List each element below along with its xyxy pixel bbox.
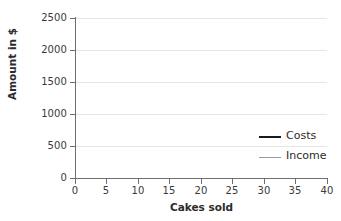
- y-ticklabel-1500: 1500: [27, 77, 67, 87]
- y-tick-500: [70, 146, 75, 147]
- x-tick-40: [327, 179, 328, 184]
- y-axis-title: Amount in $: [5, 4, 19, 124]
- y-ticklabel-2500-wrap: 2500: [22, 13, 67, 23]
- y-axis-line: [75, 17, 76, 179]
- x-ticklabel-40: 40: [312, 186, 341, 196]
- chart-legend: Costs Income: [259, 128, 341, 168]
- y-tick-1500: [70, 82, 75, 83]
- y-ticklabel-1000-wrap: 1000: [22, 109, 67, 119]
- gridline-2500: [75, 18, 327, 19]
- x-tick-20: [201, 179, 202, 184]
- x-ticklabel-30: 30: [249, 186, 279, 196]
- line-chart: 2500 2000 1500 1000 500 0 0 5 10 15 20 2…: [0, 0, 341, 221]
- y-ticklabel-500-wrap: 500: [22, 141, 67, 151]
- y-ticklabel-500: 500: [27, 141, 67, 151]
- legend-label-income: Income: [286, 149, 326, 163]
- legend-item-costs: Costs: [259, 128, 341, 148]
- gridline-1000: [75, 114, 327, 115]
- x-ticklabel-20: 20: [186, 186, 216, 196]
- x-tick-25: [232, 179, 233, 184]
- x-ticklabel-0: 0: [60, 186, 90, 196]
- x-axis-title: Cakes sold: [75, 201, 328, 213]
- x-tick-35: [295, 179, 296, 184]
- legend-swatch-income-icon: [259, 157, 281, 158]
- y-axis-title-wrap: Amount in $: [5, 4, 19, 124]
- y-ticklabel-1500-wrap: 1500: [22, 77, 67, 87]
- legend-swatch-costs-icon: [259, 136, 281, 138]
- y-ticklabel-1000: 1000: [27, 109, 67, 119]
- x-ticklabel-5: 5: [91, 186, 121, 196]
- x-tick-30: [264, 179, 265, 184]
- gridline-1500: [75, 82, 327, 83]
- y-tick-2000: [70, 50, 75, 51]
- y-tick-1000: [70, 114, 75, 115]
- gridline-2000: [75, 50, 327, 51]
- x-ticklabel-25: 25: [217, 186, 247, 196]
- x-tick-10: [138, 179, 139, 184]
- x-tick-15: [169, 179, 170, 184]
- y-ticklabel-2000: 2000: [27, 45, 67, 55]
- legend-label-costs: Costs: [286, 129, 316, 143]
- x-ticklabel-15: 15: [154, 186, 184, 196]
- y-tick-2500: [70, 18, 75, 19]
- x-ticklabel-10: 10: [123, 186, 153, 196]
- x-tick-0: [75, 179, 76, 184]
- legend-item-income: Income: [259, 148, 341, 168]
- y-ticklabel-0-wrap: 0: [22, 173, 67, 183]
- x-tick-5: [106, 179, 107, 184]
- y-ticklabel-2000-wrap: 2000: [22, 45, 67, 55]
- x-ticklabel-35: 35: [280, 186, 310, 196]
- y-ticklabel-2500: 2500: [27, 13, 67, 23]
- y-ticklabel-0: 0: [27, 173, 67, 183]
